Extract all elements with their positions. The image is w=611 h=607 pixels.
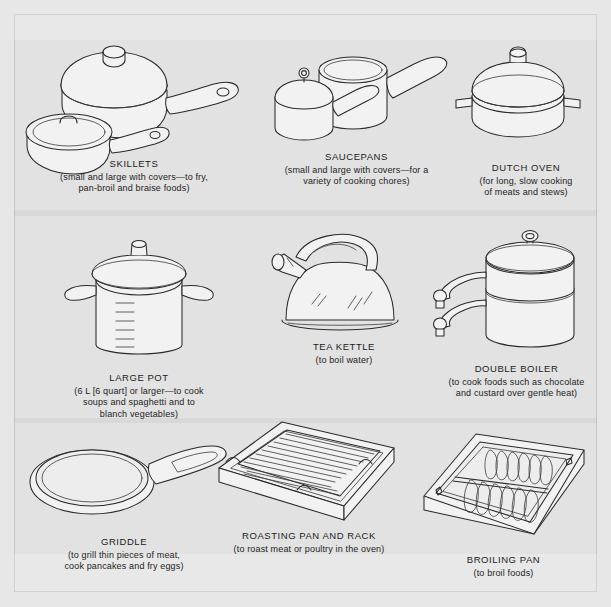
caption-description: (for long, slow cooking of meats and ste… (446, 176, 606, 200)
item-double-boiler: DOUBLE BOILER (to cook foods such as cho… (424, 230, 609, 405)
caption-title: TEA KETTLE (254, 341, 434, 354)
double-boiler-icon (424, 230, 609, 355)
caption-roasting-pan: ROASTING PAN AND RACK (to roast meat or … (194, 530, 424, 555)
scan-panel: SKILLETS (small and large with covers—to… (14, 14, 597, 592)
caption-title: BROILING PAN (406, 554, 601, 567)
caption-title: LARGE POT (24, 372, 254, 385)
caption-title: ROASTING PAN AND RACK (194, 530, 424, 543)
caption-broiling-pan: BROILING PAN (to broil foods) (406, 554, 601, 579)
saucepans-icon (254, 28, 459, 143)
scan-band (14, 210, 597, 216)
caption-double-boiler: DOUBLE BOILER (to cook foods such as cho… (424, 363, 609, 400)
caption-description: (to boil water) (254, 355, 434, 367)
item-dutch-oven: DUTCH OVEN (for long, slow cooking of me… (446, 34, 606, 194)
item-saucepans: SAUCEPANS (small and large with covers—f… (254, 28, 459, 193)
large-pot-icon (24, 232, 254, 362)
caption-description: (to broil foods) (406, 568, 601, 580)
caption-description: (to cook foods such as chocolate and cus… (424, 377, 609, 401)
skillets-icon (14, 22, 254, 152)
tea-kettle-icon (254, 222, 434, 337)
item-roasting-pan: ROASTING PAN AND RACK (to roast meat or … (194, 412, 424, 562)
caption-title: DOUBLE BOILER (424, 363, 609, 376)
caption-description: (to roast meat or poultry in the oven) (194, 544, 424, 556)
caption-description: (small and large with covers—to fry, pan… (14, 172, 254, 196)
caption-description: (small and large with covers—for a varie… (254, 165, 459, 189)
caption-title: SAUCEPANS (254, 151, 459, 164)
item-large-pot: LARGE POT (6 L [6 quart] or larger—to co… (24, 232, 254, 422)
roasting-pan-and-rack-icon (194, 412, 424, 522)
item-broiling-pan: BROILING PAN (to broil foods) (406, 426, 601, 576)
caption-skillets: SKILLETS (small and large with covers—to… (14, 158, 254, 195)
cookware-chart-page: SKILLETS (small and large with covers—to… (0, 0, 611, 607)
caption-dutch-oven: DUTCH OVEN (for long, slow cooking of me… (446, 162, 606, 199)
caption-tea-kettle: TEA KETTLE (to boil water) (254, 341, 434, 366)
broiling-pan-icon (406, 426, 601, 541)
caption-title: SKILLETS (14, 158, 254, 171)
item-skillets: SKILLETS (small and large with covers—to… (14, 22, 254, 202)
item-tea-kettle: TEA KETTLE (to boil water) (254, 222, 434, 382)
caption-title: DUTCH OVEN (446, 162, 606, 175)
caption-saucepans: SAUCEPANS (small and large with covers—f… (254, 151, 459, 188)
dutch-oven-icon (446, 34, 606, 144)
